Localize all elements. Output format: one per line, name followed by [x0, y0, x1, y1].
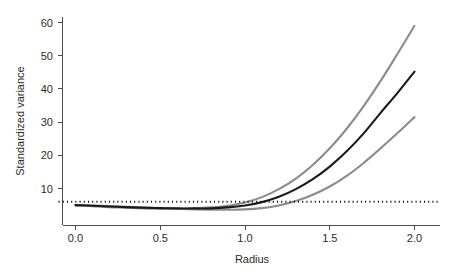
series-lower-gray-curve — [76, 117, 415, 210]
y-tick-label-40: 40 — [41, 83, 53, 95]
data-series-group — [59, 26, 440, 210]
chart-figure: 60 50 40 30 20 10 0.0 0.5 1.0 1.5 2.0 Ra… — [0, 0, 452, 273]
y-tick-label-30: 30 — [41, 116, 53, 128]
y-tick-label-50: 50 — [41, 50, 53, 62]
x-tick-label-0-0: 0.0 — [68, 232, 83, 244]
x-tick-label-1-0: 1.0 — [237, 232, 252, 244]
x-tick-label-1-5: 1.5 — [322, 232, 337, 244]
y-axis-ticks — [58, 23, 63, 189]
x-axis-ticks — [76, 226, 415, 231]
chart-svg: 60 50 40 30 20 10 0.0 0.5 1.0 1.5 2.0 Ra… — [0, 0, 452, 273]
series-upper-gray-curve — [76, 26, 415, 209]
x-tick-label-0-5: 0.5 — [153, 232, 168, 244]
series-middle-black-curve — [76, 72, 415, 209]
x-axis-tick-labels: 0.0 0.5 1.0 1.5 2.0 — [68, 232, 422, 244]
y-tick-label-20: 20 — [41, 149, 53, 161]
x-tick-label-2-0: 2.0 — [407, 232, 422, 244]
y-tick-label-60: 60 — [41, 17, 53, 29]
x-axis-title: Radius — [235, 253, 270, 265]
y-axis-title: Standardized variance — [14, 66, 26, 175]
y-axis-tick-labels: 60 50 40 30 20 10 — [41, 17, 53, 195]
y-tick-label-10: 10 — [41, 183, 53, 195]
